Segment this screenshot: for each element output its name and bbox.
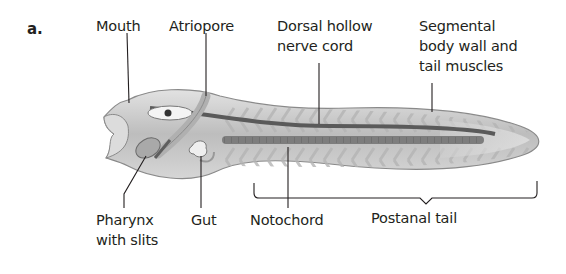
label-pharynx-line2: with slits [96, 231, 158, 250]
mouth-leader-line [127, 33, 129, 103]
lancelet-body [104, 90, 539, 179]
label-muscles-line2: body wall and [419, 37, 518, 56]
label-nerve-cord-line2: nerve cord [277, 37, 353, 56]
label-atriopore: Atriopore [169, 17, 234, 36]
label-muscles-line3: tail muscles [419, 57, 503, 76]
label-notochord: Notochord [250, 211, 323, 230]
postanal-tail-bracket [254, 181, 537, 204]
label-muscles-line1: Segmental [419, 17, 495, 36]
label-gut: Gut [191, 211, 217, 230]
label-nerve-cord-line1: Dorsal hollow [277, 17, 372, 36]
label-mouth: Mouth [96, 17, 140, 36]
label-pharynx-line1: Pharynx [96, 211, 154, 230]
label-postanal-tail: Postanal tail [371, 209, 457, 228]
